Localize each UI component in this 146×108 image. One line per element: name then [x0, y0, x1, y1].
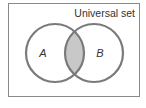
venn-diagram: Universal set A B [0, 0, 146, 108]
set-a-label: A [38, 47, 46, 59]
set-b-label: B [96, 47, 103, 59]
universal-set-label: Universal set [74, 7, 135, 19]
